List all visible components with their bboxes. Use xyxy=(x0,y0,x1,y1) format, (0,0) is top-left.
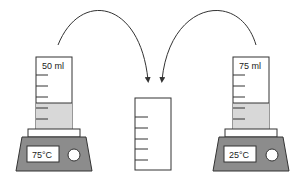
left-graduated-cylinder: 50 ml xyxy=(36,57,72,129)
right-hotplate: 25°C xyxy=(213,129,289,171)
right-temperature-value: 25°C xyxy=(229,150,250,160)
right-cylinder-label: 75 ml xyxy=(239,61,261,71)
left-temperature-value: 75°C xyxy=(32,150,53,160)
right-graduated-cylinder: 75 ml xyxy=(233,57,269,129)
mixing-diagram: 50 ml 75°C 75 ml 25°C xyxy=(0,0,304,181)
left-hotplate-knob xyxy=(68,149,80,161)
left-cylinder-label: 50 ml xyxy=(42,61,64,71)
right-hotplate-knob xyxy=(266,149,278,161)
left-hotplate: 75°C xyxy=(16,129,92,171)
center-empty-cylinder xyxy=(135,98,171,170)
